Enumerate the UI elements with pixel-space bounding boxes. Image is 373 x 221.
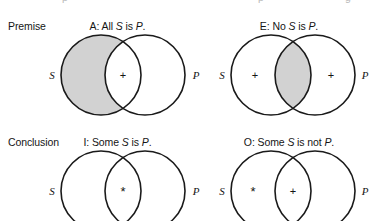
venn-diagram-a: S P + <box>30 30 205 120</box>
premise-row: Premise A: All S is P. <box>0 0 373 121</box>
set-label-s-a: S <box>49 69 55 81</box>
mark-overlap-a: + <box>120 69 126 81</box>
venn-wrap-i: S P * <box>30 146 205 221</box>
mark-p-only-e: + <box>328 69 334 81</box>
venn-wrap-a: S P + <box>30 30 205 120</box>
set-label-s-i: S <box>49 185 55 197</box>
mark-s-only-e: + <box>252 69 258 81</box>
mark-s-only-o: * <box>250 184 255 199</box>
venn-diagram-e: S P + + <box>205 30 373 120</box>
set-label-p-o: P <box>361 185 369 197</box>
shaded-region-s-only-a <box>30 30 205 120</box>
set-label-p-a: P <box>192 69 200 81</box>
diagram-cell-i: I: Some S is P. S P * <box>30 121 205 221</box>
set-label-s-o: S <box>219 185 225 197</box>
set-label-p-i: P <box>192 185 200 197</box>
mark-overlap-i: * <box>120 184 125 199</box>
diagram-cell-a: A: All S is P. <box>30 0 205 121</box>
diagram-cell-o: O: Some S is not P. S P * + <box>205 121 373 221</box>
venn-diagram-i: S P * <box>30 146 205 221</box>
venn-wrap-o: S P * + <box>205 146 373 221</box>
set-label-s-e: S <box>219 69 225 81</box>
diagram-cell-e: E: No S is P. S P + + <box>205 0 373 121</box>
set-label-p-e: P <box>361 69 369 81</box>
venn-diagram-o: S P * + <box>205 146 373 221</box>
mark-overlap-o: + <box>290 185 296 197</box>
conclusion-row: Conclusion I: Some S is P. S P * O: Some <box>0 121 373 221</box>
venn-figure: p p g Premise A: All S is P. <box>0 0 373 221</box>
venn-wrap-e: S P + + <box>205 30 373 120</box>
